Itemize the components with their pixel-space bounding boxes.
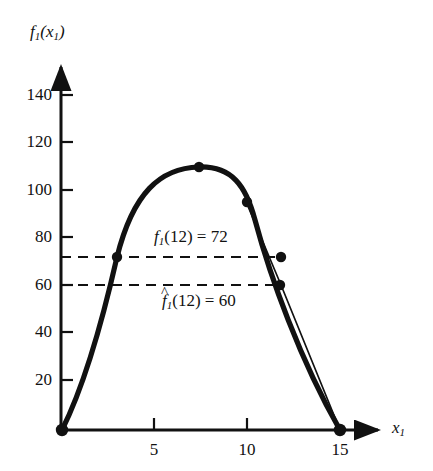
y-tick-label-40: 40 <box>10 322 52 342</box>
y-tick-label-100: 100 <box>10 180 52 200</box>
x-axis-title: x1 <box>392 418 405 438</box>
y-tick-label-120: 120 <box>10 132 52 152</box>
y-tick-label-80: 80 <box>10 227 52 247</box>
marker-chord-left-endpoint <box>242 197 252 207</box>
annotation-true-text: (12) = 72 <box>164 227 227 246</box>
marker-origin <box>56 424 68 436</box>
annotation-approx-fn-hat: ^f <box>162 291 167 311</box>
annotation-approx-value: ^f1(12) = 60 <box>162 291 236 311</box>
y-axis-ticks <box>61 95 73 380</box>
y-axis-title-arg-close: ) <box>59 22 65 41</box>
marker-chord-at-12 <box>275 280 285 290</box>
marker-curve-maximum <box>194 162 204 172</box>
x-axis-title-base: x <box>392 418 400 437</box>
x-tick-label-10: 10 <box>227 440 267 460</box>
x-tick-label-5: 5 <box>134 440 174 460</box>
figure-container: f1(x1) x1 140 120 100 80 60 40 20 5 10 1… <box>0 0 433 471</box>
y-axis-title: f1(x1) <box>30 22 65 42</box>
annotation-approx-text: (12) = 60 <box>172 291 235 310</box>
x-axis-ticks <box>154 418 247 430</box>
y-tick-label-140: 140 <box>10 85 52 105</box>
annotation-true-value: f1(12) = 72 <box>154 227 228 247</box>
hat-accent-icon: ^ <box>161 284 166 301</box>
marker-curve-left-72 <box>112 252 122 262</box>
x-tick-label-15: 15 <box>320 440 360 460</box>
marker-curve-at-12 <box>276 252 286 262</box>
y-tick-label-60: 60 <box>10 275 52 295</box>
y-tick-label-20: 20 <box>10 370 52 390</box>
x-axis-title-sub: 1 <box>400 426 406 438</box>
y-axis-title-arg-open: (x <box>40 22 53 41</box>
marker-right-root <box>334 424 346 436</box>
